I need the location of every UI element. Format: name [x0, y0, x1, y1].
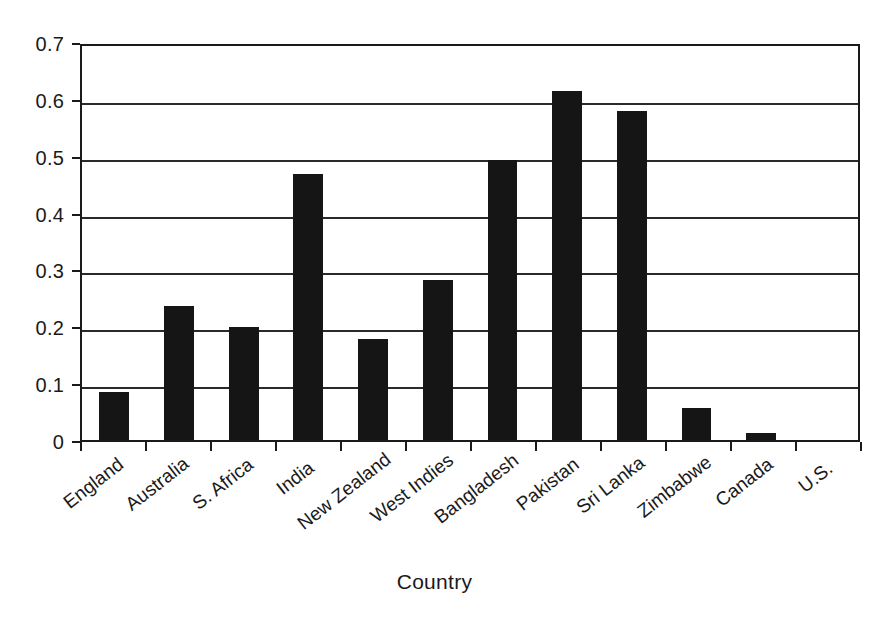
bar — [423, 280, 453, 440]
x-axis-tick-marks — [80, 442, 860, 452]
x-axis-tick-mark — [340, 442, 342, 451]
bar-slot — [147, 46, 212, 440]
x-axis-tick-label: Zimbabwe — [634, 452, 715, 521]
x-axis-tick-mark — [470, 442, 472, 451]
x-axis-tick-mark — [795, 442, 797, 451]
y-axis-tick-label: 0.2 — [36, 318, 64, 338]
y-axis-tick-mark — [72, 43, 80, 45]
y-axis-tick-mark — [72, 270, 80, 272]
x-axis-tick-mark — [600, 442, 602, 451]
x-axis-tick-mark — [730, 442, 732, 451]
y-axis-tick-mark — [72, 100, 80, 102]
y-axis-tick-mark — [72, 157, 80, 159]
bar — [682, 408, 712, 440]
y-axis-tick-label: 0.5 — [36, 148, 64, 168]
x-axis-tick-label: England — [60, 454, 127, 512]
y-axis-tick-label: 0 — [53, 432, 64, 452]
bar — [358, 339, 388, 440]
x-axis-tick-label: U.S. — [795, 458, 836, 496]
y-axis-tick-label: 0.3 — [36, 261, 64, 281]
bar-slot — [793, 46, 858, 440]
bar-slot — [664, 46, 729, 440]
x-axis-tick-mark — [275, 442, 277, 451]
bar-slot — [276, 46, 341, 440]
bar — [746, 433, 776, 440]
x-axis-tick-mark — [535, 442, 537, 451]
x-axis-tick-mark — [80, 442, 82, 451]
y-axis-tick-label: 0.1 — [36, 375, 64, 395]
bar — [552, 91, 582, 440]
x-axis-tick-label: S. Africa — [189, 454, 256, 513]
y-axis-tick-mark — [72, 214, 80, 216]
bar-slot — [470, 46, 535, 440]
bar — [488, 160, 518, 440]
bar — [293, 174, 323, 440]
x-axis-tick-label: India — [273, 458, 317, 498]
plot-area — [80, 44, 860, 442]
bar-slot — [535, 46, 600, 440]
bar-slot — [405, 46, 470, 440]
x-axis-tick-labels: EnglandAustraliaS. AfricaIndiaNew Zealan… — [80, 452, 860, 557]
x-axis-title: Country — [0, 570, 869, 594]
bar — [617, 111, 647, 440]
x-axis-tick-mark — [145, 442, 147, 451]
bar-slot — [729, 46, 794, 440]
y-axis-tick-labels: 0.70.60.50.40.30.20.10 — [0, 44, 72, 442]
y-axis-tick-label: 0.6 — [36, 91, 64, 111]
bars-layer — [82, 46, 858, 440]
x-axis-tick-label: Pakistan — [513, 454, 582, 514]
bar-slot — [211, 46, 276, 440]
x-axis-tick-mark — [860, 442, 862, 451]
x-axis-tick-label: Canada — [712, 455, 776, 511]
bar — [164, 306, 194, 440]
bar — [229, 327, 259, 440]
bar-slot — [341, 46, 406, 440]
x-axis-tick-label: Australia — [122, 454, 192, 514]
y-axis-tick-label: 0.7 — [36, 34, 64, 54]
bar-chart: 0.70.60.50.40.30.20.10 EnglandAustraliaS… — [0, 0, 869, 624]
x-axis-tick-mark — [210, 442, 212, 451]
y-axis-tick-mark — [72, 327, 80, 329]
y-axis-tick-mark — [72, 384, 80, 386]
x-axis-tick-mark — [665, 442, 667, 451]
y-axis-tick-label: 0.4 — [36, 205, 64, 225]
y-axis-tick-mark — [72, 441, 80, 443]
bar-slot — [599, 46, 664, 440]
bar — [99, 392, 129, 440]
bar-slot — [82, 46, 147, 440]
x-axis-tick-mark — [405, 442, 407, 451]
